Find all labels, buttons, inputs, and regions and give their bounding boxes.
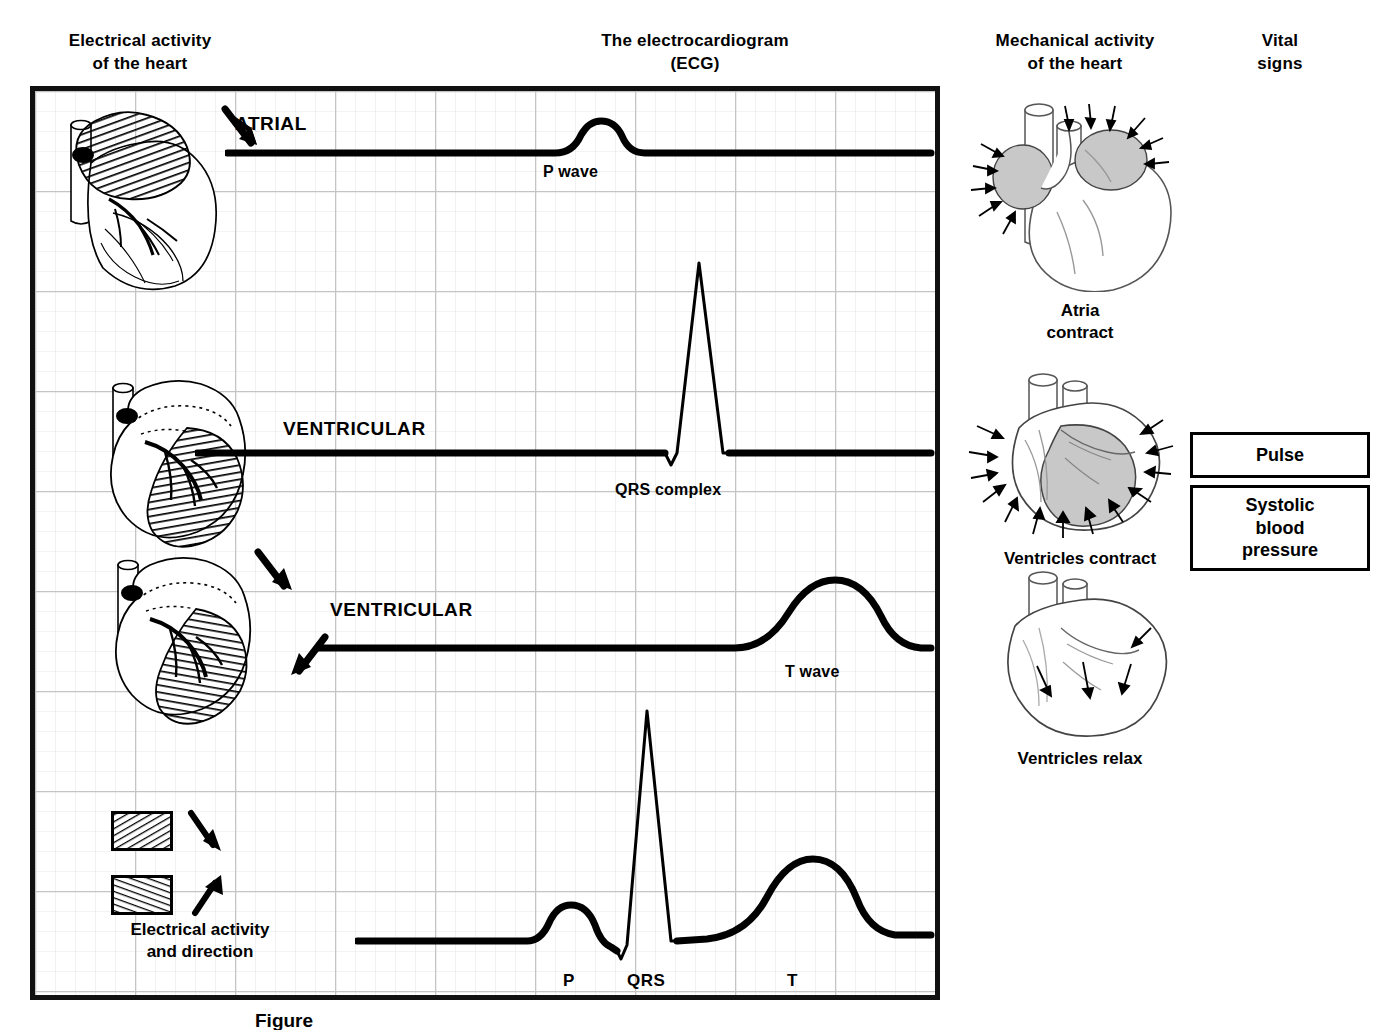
- ecg-panel: ATRIAL P wave VENTRICULAR QRS comp: [30, 86, 940, 1000]
- wave-label-p-wave: P wave: [543, 163, 598, 181]
- column-header-vital-signs: Vital signs: [1215, 30, 1345, 76]
- mechanical-caption-ventricles-contract: Ventricles contract: [955, 548, 1205, 570]
- mechanical-stage-ventricles-contract: Ventricles contract: [955, 370, 1205, 570]
- mechanical-stage-ventricles-relax: Ventricles relax: [955, 570, 1205, 770]
- mechanical-caption-atria-contract: Atria contract: [955, 300, 1205, 344]
- column-header-mechanical-activity: Mechanical activity of the heart: [960, 30, 1190, 76]
- mechanical-stage-atria-contract: Atria contract: [955, 92, 1205, 344]
- heart-illustration-atria-contracting: [965, 92, 1195, 292]
- vital-sign-box-systolic-blood-pressure: Systolic blood pressure: [1190, 485, 1370, 571]
- figure-caption: Figure: [255, 1010, 555, 1030]
- legend-row-downward: [81, 811, 341, 861]
- wave-label-qrs-complex: QRS complex: [615, 481, 721, 499]
- wave-label-t-wave: T wave: [785, 663, 840, 681]
- column-header-electrocardiogram: The electrocardiogram (ECG): [545, 30, 845, 76]
- trace-label-ventricular-repolarization: VENTRICULAR: [330, 599, 473, 621]
- vital-sign-box-pulse: Pulse: [1190, 432, 1370, 478]
- legend-swatch-upward-spread: [111, 875, 173, 915]
- heart-illustration-ventricles-contracting: [965, 370, 1195, 540]
- trace-label-ventricular-depolarization: VENTRICULAR: [283, 418, 426, 440]
- mechanical-caption-ventricles-relax: Ventricles relax: [955, 748, 1205, 770]
- legend-arrow-down-right-icon: [185, 809, 231, 861]
- rhythm-tick-label-p: P: [563, 971, 575, 991]
- legend-swatch-downward-spread: [111, 811, 173, 851]
- legend-row-upward: [81, 875, 341, 925]
- column-header-electrical-activity: Electrical activity of the heart: [30, 30, 250, 76]
- heart-illustration-ventricles-relaxing: [965, 570, 1195, 740]
- trace-label-atrial: ATRIAL: [235, 113, 307, 135]
- legend-arrow-up-right-icon: [185, 869, 231, 921]
- rhythm-tick-label-t: T: [787, 971, 798, 991]
- legend-electrical-activity-direction: Electrical activity and direction: [81, 811, 341, 925]
- legend-caption: Electrical activity and direction: [65, 919, 335, 963]
- rhythm-tick-label-qrs: QRS: [627, 971, 665, 991]
